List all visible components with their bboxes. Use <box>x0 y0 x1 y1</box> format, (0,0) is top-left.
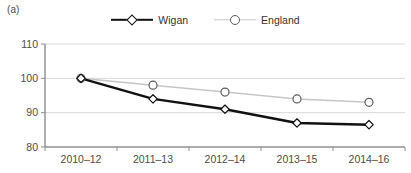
y-axis-tick-labels: 8090100110 <box>20 38 38 153</box>
x-axis-ticks <box>45 147 405 151</box>
circle-marker-icon[interactable] <box>293 95 301 103</box>
chart-figure: (a) Wigan England 8090100110 2010–122011… <box>0 0 411 173</box>
y-axis-ticks <box>41 44 45 147</box>
chart-plot-area: 8090100110 2010–122011–132012–142013–152… <box>0 0 411 173</box>
x-tick-label: 2014–16 <box>349 153 390 165</box>
y-tick-label: 80 <box>26 141 38 153</box>
diamond-marker-icon[interactable] <box>365 120 373 128</box>
x-tick-label: 2013–15 <box>277 153 318 165</box>
circle-marker-icon[interactable] <box>365 98 373 106</box>
y-tick-label: 110 <box>21 38 38 50</box>
y-tick-label: 100 <box>20 72 38 84</box>
series-line-wigan <box>81 78 369 124</box>
series-lines <box>81 78 369 124</box>
x-axis-tick-labels: 2010–122011–132012–142013–152014–16 <box>61 153 390 165</box>
y-tick-label: 90 <box>26 106 38 118</box>
diamond-marker-icon[interactable] <box>293 119 301 127</box>
x-tick-label: 2012–14 <box>205 153 246 165</box>
x-tick-label: 2011–13 <box>133 153 173 165</box>
circle-marker-icon[interactable] <box>221 88 229 96</box>
diamond-marker-icon[interactable] <box>149 95 157 103</box>
x-tick-label: 2010–12 <box>61 153 102 165</box>
circle-marker-icon[interactable] <box>149 81 157 89</box>
